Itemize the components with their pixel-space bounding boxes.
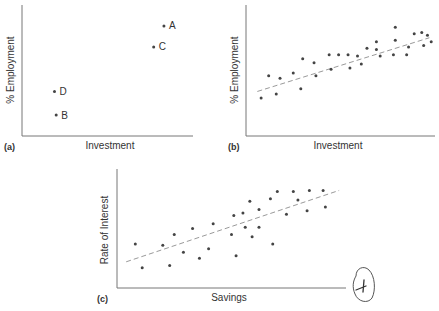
data-point	[198, 257, 201, 260]
data-point	[379, 55, 382, 58]
data-point	[269, 197, 272, 200]
data-point	[299, 87, 302, 90]
data-point	[251, 235, 254, 238]
panel-b-y-axis-label: % Employment	[229, 36, 240, 103]
scatter-panel-b: % Employment Investment (b)	[228, 5, 435, 152]
scatter-panel-a: ACDB % Employment Investment (a)	[4, 5, 193, 152]
data-point	[301, 57, 304, 60]
data-point	[275, 93, 278, 96]
point-label-c: C	[159, 41, 166, 52]
data-point	[173, 233, 176, 236]
scatter-panel-c: Rate of Interest Savings (c)	[97, 169, 346, 304]
panel-c-axes	[117, 169, 346, 288]
panel-b-points	[260, 26, 433, 100]
data-point	[347, 53, 350, 56]
page-number-glyph	[356, 280, 366, 292]
panel-b-trend-line	[257, 38, 429, 92]
data-point	[356, 55, 359, 58]
data-point	[191, 227, 194, 230]
panel-c-points	[134, 189, 327, 269]
data-point	[306, 209, 309, 212]
data-point	[267, 74, 270, 77]
data-point	[375, 40, 378, 43]
panel-a-x-axis-label: Investment	[86, 140, 135, 151]
data-point	[182, 251, 185, 254]
data-point	[207, 247, 210, 250]
point-label-b: B	[61, 110, 68, 121]
data-point	[337, 53, 340, 56]
data-point	[348, 66, 351, 69]
figure-canvas: ACDB % Employment Investment (a) % Emplo…	[0, 0, 439, 311]
panel-b-label: (b)	[228, 142, 240, 152]
data-point	[360, 62, 363, 65]
panel-c-x-axis-label: Savings	[211, 292, 247, 303]
data-point	[55, 114, 58, 117]
data-point	[407, 45, 410, 48]
point-label-a: A	[169, 20, 176, 31]
data-point	[330, 68, 333, 71]
data-point	[394, 39, 397, 42]
panel-a-axes	[22, 5, 193, 136]
point-label-d: D	[59, 86, 66, 97]
data-point	[292, 190, 295, 193]
data-point	[271, 242, 274, 245]
data-point	[168, 264, 171, 267]
data-point	[322, 189, 325, 192]
panel-a-label: (a)	[4, 142, 15, 152]
data-point	[241, 212, 244, 215]
panel-b-axes	[246, 5, 435, 136]
data-point	[162, 24, 165, 27]
data-point	[212, 222, 215, 225]
panel-c-trend-line	[126, 190, 339, 261]
data-point	[392, 53, 395, 56]
panel-a-points: ACDB	[53, 20, 176, 120]
data-point	[365, 47, 368, 50]
data-point	[141, 266, 144, 269]
data-point	[308, 189, 311, 192]
data-point	[276, 190, 279, 193]
data-point	[279, 77, 282, 80]
data-point	[413, 32, 416, 35]
data-point	[230, 233, 233, 236]
data-point	[244, 226, 247, 229]
data-point	[375, 48, 378, 51]
data-point	[53, 90, 56, 93]
data-point	[430, 40, 433, 43]
data-point	[313, 61, 316, 64]
data-point	[422, 44, 425, 47]
data-point	[134, 242, 137, 245]
data-point	[257, 208, 260, 211]
data-point	[426, 34, 429, 37]
data-point	[260, 97, 263, 100]
data-point	[324, 206, 327, 209]
panel-c-y-axis-label: Rate of Interest	[99, 196, 110, 265]
handwritten-page-number	[353, 268, 374, 302]
data-point	[394, 26, 397, 29]
data-point	[292, 72, 295, 75]
data-point	[257, 226, 260, 229]
data-point	[285, 213, 288, 216]
data-point	[296, 198, 299, 201]
data-point	[328, 53, 331, 56]
data-point	[161, 244, 164, 247]
data-point	[235, 254, 238, 257]
panel-b-x-axis-label: Investment	[314, 140, 363, 151]
data-point	[248, 200, 251, 203]
data-point	[152, 45, 155, 48]
panel-c-label: (c)	[97, 294, 108, 304]
data-point	[314, 74, 317, 77]
data-point	[232, 214, 235, 217]
data-point	[405, 53, 408, 56]
panel-a-y-axis-label: % Employment	[5, 36, 16, 103]
data-point	[420, 31, 423, 34]
